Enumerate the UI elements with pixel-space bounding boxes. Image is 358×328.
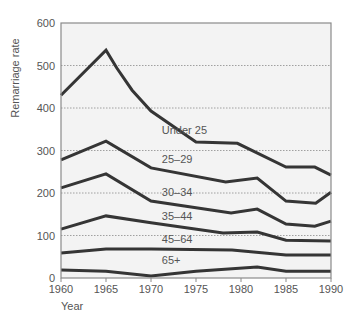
- y-axis-title: Remarriage rate: [9, 38, 21, 117]
- x-tick-label: 1990: [319, 283, 343, 295]
- x-tick-label: 1980: [229, 283, 253, 295]
- series-label: Under 25: [162, 124, 207, 136]
- series-label: 65+: [162, 254, 181, 266]
- y-tick-label: 300: [37, 145, 55, 157]
- y-tick-label: 600: [37, 17, 55, 29]
- x-tick-label: 1960: [49, 283, 73, 295]
- series-label: 30–34: [162, 186, 193, 198]
- series-label: 45–64: [162, 233, 193, 245]
- series-label: 25–29: [162, 153, 193, 165]
- x-axis: 1960196519701975198019851990: [49, 278, 343, 295]
- x-axis-title: Year: [61, 300, 84, 312]
- x-tick-label: 1985: [274, 283, 298, 295]
- x-tick-label: 1970: [139, 283, 163, 295]
- y-tick-label: 200: [37, 187, 55, 199]
- x-tick-label: 1965: [94, 283, 118, 295]
- y-tick-label: 400: [37, 102, 55, 114]
- x-tick-label: 1975: [184, 283, 208, 295]
- y-tick-label: 500: [37, 60, 55, 72]
- y-axis: 0100200300400500600: [37, 17, 55, 284]
- series-label: 35–44: [162, 210, 193, 222]
- line-chart: Under 2525–2930–3435–4445–6465+ 19601965…: [0, 0, 358, 328]
- y-tick-label: 0: [49, 272, 55, 284]
- y-tick-label: 100: [37, 230, 55, 242]
